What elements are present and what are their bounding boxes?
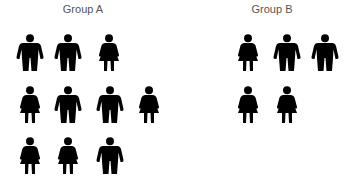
male-person-icon xyxy=(272,34,302,72)
female-person-icon xyxy=(15,137,45,175)
group-title-a: Group A xyxy=(43,3,123,15)
female-person-icon xyxy=(233,34,263,72)
group-title-b: Group B xyxy=(232,3,312,15)
male-person-icon xyxy=(53,34,83,72)
male-person-icon xyxy=(53,86,83,124)
female-person-icon xyxy=(94,34,124,72)
male-person-icon xyxy=(15,34,45,72)
female-person-icon xyxy=(53,137,83,175)
female-person-icon xyxy=(134,86,164,124)
female-person-icon xyxy=(233,86,263,124)
female-person-icon xyxy=(15,86,45,124)
male-person-icon xyxy=(95,86,125,124)
male-person-icon xyxy=(310,34,340,72)
female-person-icon xyxy=(272,86,302,124)
male-person-icon xyxy=(95,137,125,175)
